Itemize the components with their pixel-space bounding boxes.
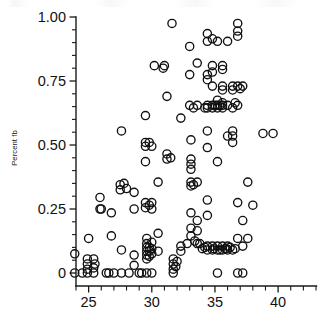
x-axis-tick-label: 25 xyxy=(81,294,97,310)
y-axis-tick-label: 0.25 xyxy=(38,201,66,217)
data-point-marker xyxy=(239,216,247,224)
data-point-marker xyxy=(234,19,242,27)
y-axis-tick-label: 1.00 xyxy=(38,9,66,25)
x-axis-tick-label: 30 xyxy=(144,294,160,310)
data-point-marker xyxy=(231,245,239,253)
data-point-marker xyxy=(187,136,195,144)
data-point-marker xyxy=(208,35,216,43)
data-markers-group xyxy=(71,19,278,277)
axes-group xyxy=(70,17,317,293)
data-point-marker xyxy=(177,247,185,255)
data-point-marker xyxy=(213,269,221,277)
data-point-marker xyxy=(130,261,138,269)
data-point-marker xyxy=(234,199,242,207)
data-point-marker xyxy=(234,32,242,40)
y-axis-tick-label: 0.75 xyxy=(38,73,66,89)
data-point-marker xyxy=(186,71,194,79)
data-point-marker xyxy=(193,216,201,224)
data-point-marker xyxy=(203,211,211,219)
data-point-marker xyxy=(154,229,162,237)
data-point-marker xyxy=(203,143,211,151)
data-point-marker xyxy=(150,62,158,70)
data-point-marker xyxy=(239,269,247,277)
data-point-marker xyxy=(117,127,125,135)
data-point-marker xyxy=(107,209,115,217)
data-point-marker xyxy=(117,246,125,254)
data-point-marker xyxy=(193,59,201,67)
x-axis-tick-label: 35 xyxy=(207,294,223,310)
data-point-marker xyxy=(159,64,167,72)
data-point-marker xyxy=(244,234,252,242)
data-point-marker xyxy=(148,269,156,277)
data-point-marker xyxy=(259,129,267,137)
data-point-marker xyxy=(107,232,115,240)
data-point-marker xyxy=(208,82,216,90)
x-axis-tick-label: 40 xyxy=(270,294,286,310)
data-point-marker xyxy=(187,209,195,217)
data-point-marker xyxy=(203,196,211,204)
data-point-marker xyxy=(249,201,257,209)
data-point-marker xyxy=(85,234,93,242)
data-point-marker xyxy=(203,37,211,45)
data-point-marker xyxy=(229,104,237,112)
data-point-marker xyxy=(213,37,221,45)
scatter-plot-figure: 00.250.500.751.0025303540 Percent fb xyxy=(0,0,336,329)
data-point-marker xyxy=(96,193,104,201)
data-point-marker xyxy=(203,30,211,38)
data-point-marker xyxy=(130,205,138,213)
data-point-marker xyxy=(269,129,277,137)
data-point-marker xyxy=(130,188,138,196)
data-point-marker xyxy=(154,178,162,186)
data-point-marker xyxy=(186,42,194,50)
data-point-marker xyxy=(71,250,79,258)
plot-canvas: 00.250.500.751.0025303540 Percent fb xyxy=(0,0,336,329)
y-axis-tick-label: 0.50 xyxy=(38,137,66,153)
data-point-marker xyxy=(234,234,242,242)
y-axis-title-group: Percent fb xyxy=(10,130,19,166)
data-point-marker xyxy=(187,165,195,173)
y-axis-title: Percent fb xyxy=(10,130,19,166)
data-point-marker xyxy=(168,19,176,27)
data-point-marker xyxy=(203,127,211,135)
y-axis-tick-label: 0 xyxy=(58,265,66,281)
data-point-marker xyxy=(213,158,221,166)
data-point-marker xyxy=(141,158,149,166)
data-point-marker xyxy=(163,92,171,100)
data-point-marker xyxy=(177,114,185,122)
tick-labels-group: 00.250.500.751.0025303540 xyxy=(38,9,286,310)
data-point-marker xyxy=(244,178,252,186)
data-point-marker xyxy=(141,111,149,119)
data-point-marker xyxy=(130,251,138,259)
data-point-marker xyxy=(223,37,231,45)
